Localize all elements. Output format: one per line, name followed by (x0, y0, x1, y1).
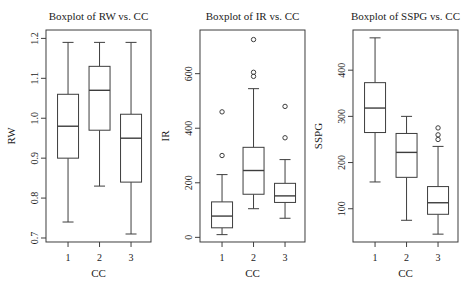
outlier-point (282, 136, 286, 140)
chart-title: Boxplot of IR vs. CC (205, 10, 299, 22)
boxplot-rw-vs-cc: Boxplot of RW vs. CC0.70.80.91.01.11.2RW… (0, 0, 154, 295)
box-group-cc-3 (121, 42, 142, 234)
x-tick-label: 3 (282, 252, 287, 263)
y-tick-label: 0.7 (29, 232, 40, 244)
y-tick-label: 0.8 (29, 192, 40, 204)
boxplot-ir-vs-cc: Boxplot of IR vs. CC0200400600IR123CC (154, 0, 308, 295)
x-tick-label: 1 (373, 252, 378, 263)
y-tick-label: 600 (183, 66, 194, 81)
box-group-cc-1 (365, 38, 386, 182)
y-tick-label: 100 (336, 201, 347, 216)
x-tick-label: 3 (436, 252, 441, 263)
y-tick-label: 200 (183, 175, 194, 190)
boxplot-figure: Boxplot of RW vs. CC0.70.80.91.01.11.2RW… (0, 0, 461, 295)
x-tick-label: 2 (97, 252, 102, 263)
outlier-point (436, 133, 440, 137)
outlier-point (436, 137, 440, 141)
x-axis-label: CC (398, 267, 413, 279)
y-tick-label: 1.2 (29, 32, 40, 44)
iqr-box (89, 66, 110, 130)
x-tick-label: 2 (404, 252, 409, 263)
y-tick-label: 200 (336, 155, 347, 170)
x-tick-label: 1 (66, 252, 71, 263)
x-axis-label: CC (91, 267, 106, 279)
box-group-cc-1 (58, 42, 79, 222)
y-axis-label: IR (159, 130, 171, 142)
outlier-point (251, 37, 255, 41)
iqr-box (121, 114, 142, 182)
box-group-cc-2 (243, 37, 264, 208)
x-tick-label: 3 (129, 252, 134, 263)
iqr-box (274, 183, 295, 202)
y-tick-label: 0.9 (29, 152, 40, 164)
box-group-cc-2 (396, 116, 417, 220)
box-group-cc-3 (428, 126, 449, 234)
y-tick-label: 1.0 (29, 112, 40, 124)
outlier-point (282, 104, 286, 108)
y-tick-label: 300 (336, 109, 347, 124)
iqr-box (428, 187, 449, 215)
box-group-cc-2 (89, 42, 110, 186)
y-axis-label: SSPG (312, 123, 324, 149)
outlier-point (436, 126, 440, 130)
box-group-cc-1 (211, 110, 232, 235)
chart-title: Boxplot of SSPG vs. CC (351, 10, 460, 22)
box-group-cc-3 (274, 104, 295, 218)
boxplot-sspg-vs-cc: Boxplot of SSPG vs. CC100200300400SSPG12… (307, 0, 461, 295)
chart-title: Boxplot of RW vs. CC (49, 10, 149, 22)
x-tick-label: 2 (251, 252, 256, 263)
y-tick-label: 0 (183, 235, 194, 240)
iqr-box (396, 133, 417, 177)
y-tick-label: 400 (183, 121, 194, 136)
y-axis-label: RW (5, 127, 17, 145)
iqr-box (211, 202, 232, 228)
outlier-point (220, 110, 224, 114)
y-tick-label: 1.1 (29, 72, 40, 84)
y-tick-label: 400 (336, 63, 347, 78)
x-tick-label: 1 (219, 252, 224, 263)
outlier-point (220, 153, 224, 157)
x-axis-label: CC (245, 267, 260, 279)
